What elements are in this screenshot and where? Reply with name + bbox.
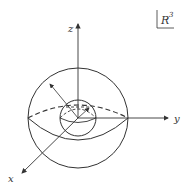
inner-equator-front xyxy=(60,118,96,123)
z-axis-label: z xyxy=(67,23,74,34)
space-exponent: 3 xyxy=(169,11,174,19)
x-axis xyxy=(22,118,78,173)
sphere-diagram: R 3 z y x xyxy=(0,0,188,188)
space-label-box: R 3 xyxy=(157,10,174,28)
diagram-canvas: R 3 z y x xyxy=(0,0,188,188)
outer-equator-front xyxy=(28,118,128,140)
space-label: R xyxy=(160,14,169,27)
x-axis-label: x xyxy=(8,173,14,184)
y-axis-label: y xyxy=(173,113,180,124)
